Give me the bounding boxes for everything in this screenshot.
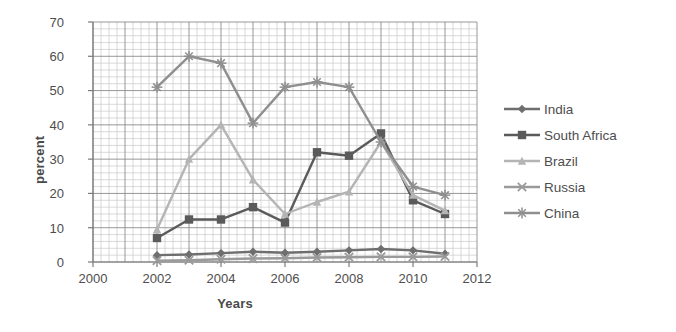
legend-item-brazil[interactable]: Brazil xyxy=(502,148,672,174)
legend-item-china[interactable]: China xyxy=(502,200,672,226)
legend-marker-triangle-icon xyxy=(502,151,542,171)
legend-marker-asterisk-icon xyxy=(502,203,542,223)
legend-label-russia: Russia xyxy=(542,180,585,195)
chart-legend: India South Africa Brazil Russia China xyxy=(502,96,672,226)
legend-label-brazil: Brazil xyxy=(542,154,578,169)
legend-label-china: China xyxy=(542,206,579,221)
legend-marker-x-icon xyxy=(502,177,542,197)
legend-marker-square-icon xyxy=(502,125,542,145)
chart-container: percent 0 10 20 30 40 50 60 70 2000 2002… xyxy=(0,0,676,332)
legend-label-india: India xyxy=(542,102,573,117)
legend-item-south-africa[interactable]: South Africa xyxy=(502,122,672,148)
legend-item-russia[interactable]: Russia xyxy=(502,174,672,200)
axis-ticks xyxy=(88,22,477,267)
legend-marker-diamond-icon xyxy=(502,99,542,119)
legend-label-south-africa: South Africa xyxy=(542,128,617,143)
legend-item-india[interactable]: India xyxy=(502,96,672,122)
